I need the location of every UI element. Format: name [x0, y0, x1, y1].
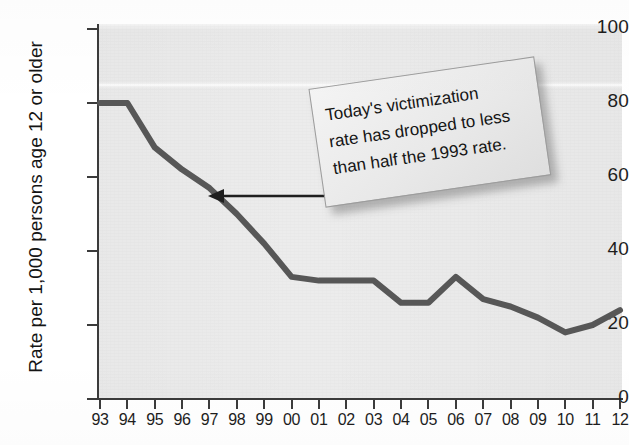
y-tick-60: [87, 176, 98, 178]
x-tick-07: [482, 400, 484, 409]
y-tick-label-80: 80: [551, 90, 629, 112]
victimization-rate-chart: Rate per 1,000 persons age 12 or older 0…: [0, 0, 629, 445]
y-axis-title: Rate per 1,000 persons age 12 or older: [25, 5, 47, 409]
callout-text: Today's victimization rate has dropped t…: [323, 72, 538, 182]
x-tick-08: [510, 400, 512, 409]
x-tick-label-12: 12: [603, 411, 629, 429]
y-tick-label-0: 0: [551, 386, 629, 408]
x-tick-02: [345, 400, 347, 409]
x-tick-10: [564, 400, 566, 409]
y-tick-0: [87, 398, 98, 400]
x-axis-line: [97, 398, 623, 400]
x-tick-97: [208, 400, 210, 409]
x-tick-11: [592, 400, 594, 409]
y-tick-label-60: 60: [551, 164, 629, 186]
x-tick-96: [181, 400, 183, 409]
y-tick-40: [87, 250, 98, 252]
x-tick-03: [373, 400, 375, 409]
x-tick-05: [427, 400, 429, 409]
y-tick-label-40: 40: [551, 238, 629, 260]
x-tick-93: [99, 400, 101, 409]
y-tick-80: [87, 102, 98, 104]
y-tick-label-20: 20: [551, 312, 629, 334]
x-tick-04: [400, 400, 402, 409]
x-tick-98: [236, 400, 238, 409]
y-tick-100: [87, 28, 98, 30]
y-tick-20: [87, 324, 98, 326]
x-tick-12: [619, 400, 621, 409]
x-tick-01: [318, 400, 320, 409]
y-tick-label-100: 100: [551, 16, 629, 38]
x-tick-09: [537, 400, 539, 409]
y-axis-line: [97, 24, 99, 400]
x-tick-00: [291, 400, 293, 409]
x-tick-94: [126, 400, 128, 409]
x-tick-99: [263, 400, 265, 409]
x-tick-95: [154, 400, 156, 409]
x-tick-06: [455, 400, 457, 409]
